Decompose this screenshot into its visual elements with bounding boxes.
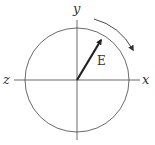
x-axis-label: x bbox=[142, 72, 150, 87]
z-axis-label: z bbox=[2, 72, 10, 87]
polarization-diagram: y x z E bbox=[0, 0, 155, 145]
vector-e-label: E bbox=[97, 54, 106, 68]
rotation-arrow-icon bbox=[94, 19, 133, 50]
y-axis-label: y bbox=[72, 1, 81, 16]
